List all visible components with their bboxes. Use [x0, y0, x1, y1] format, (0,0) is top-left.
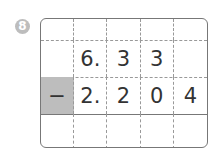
grid-cell [41, 40, 74, 77]
digit-cell: 4 [174, 77, 207, 114]
answer-cell[interactable] [141, 114, 174, 148]
grid-cell[interactable] [107, 19, 140, 40]
digit-cell: 3 [107, 40, 140, 77]
answer-cell[interactable] [107, 114, 140, 148]
minus-operator-cell: − [41, 77, 74, 114]
grid-cell[interactable] [141, 19, 174, 40]
grid-cell[interactable] [174, 19, 207, 40]
digit-cell: 2. [74, 77, 107, 114]
answer-cell[interactable] [174, 114, 207, 148]
grid-cell [174, 40, 207, 77]
subtrahend-row: − 2. 2 0 4 [41, 77, 207, 115]
digit-cell: 6. [74, 40, 107, 77]
grid-row [41, 19, 207, 41]
digit-cell: 0 [141, 77, 174, 114]
answer-row [41, 114, 207, 148]
subtraction-grid: 6. 3 3 − 2. 2 0 4 [40, 18, 208, 148]
grid-cell[interactable] [41, 19, 74, 40]
grid-cell[interactable] [74, 19, 107, 40]
answer-cell[interactable] [74, 114, 107, 148]
digit-cell: 2 [107, 77, 140, 114]
minuend-row: 6. 3 3 [41, 40, 207, 78]
answer-cell[interactable] [41, 114, 74, 148]
digit-cell: 3 [141, 40, 174, 77]
problem-number-badge: 8 [15, 19, 30, 34]
